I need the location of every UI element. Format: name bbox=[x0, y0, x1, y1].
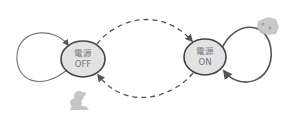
self-loop-on-arrow bbox=[222, 27, 271, 82]
sketch-figure-icon bbox=[257, 17, 279, 35]
state-off: 電源 OFF bbox=[61, 41, 105, 77]
state-on-line2: ON bbox=[198, 57, 211, 67]
state-off-line1: 電源 bbox=[74, 48, 92, 58]
state-off-line2: OFF bbox=[75, 59, 92, 69]
state-diagram: 電源 OFF 電源 ON bbox=[0, 0, 293, 119]
transition-on-to-off-arrow bbox=[98, 73, 193, 97]
state-on-line1: 電源 bbox=[196, 46, 214, 56]
state-on: 電源 ON bbox=[184, 39, 226, 75]
sketch-figure-icon bbox=[70, 91, 89, 110]
transition-off-to-on-arrow bbox=[97, 20, 192, 44]
